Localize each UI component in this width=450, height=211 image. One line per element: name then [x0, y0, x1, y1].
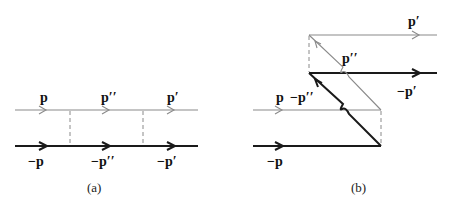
caption-a: (a) — [87, 180, 101, 195]
arrow-icon — [315, 41, 321, 48]
label-p-double-prime: p′′ — [342, 51, 358, 66]
caption-b: (b) — [351, 180, 366, 195]
feynman-diagrams: p p′′ p′ −p −p′′ −p′ (a) p′ p′′ −p′ — [0, 0, 450, 211]
label-minus-p: −p — [28, 154, 44, 169]
diagram-a: p p′′ p′ −p −p′′ −p′ (a) — [15, 90, 198, 195]
label-p-prime: p′ — [167, 90, 179, 105]
label-minus-p-prime: −p′ — [157, 154, 177, 169]
label-minus-p-double-prime: −p′′ — [290, 90, 314, 105]
label-minus-p-double-prime: −p′′ — [91, 154, 115, 169]
label-p: p — [276, 90, 284, 105]
diagram-b: p′ p′′ −p′ p −p′′ −p (b) — [253, 14, 437, 195]
label-p-prime: p′ — [408, 14, 420, 29]
label-p-double-prime: p′′ — [101, 90, 117, 105]
label-minus-p: −p — [267, 154, 283, 169]
label-minus-p-prime: −p′ — [397, 84, 417, 99]
label-p: p — [40, 90, 48, 105]
